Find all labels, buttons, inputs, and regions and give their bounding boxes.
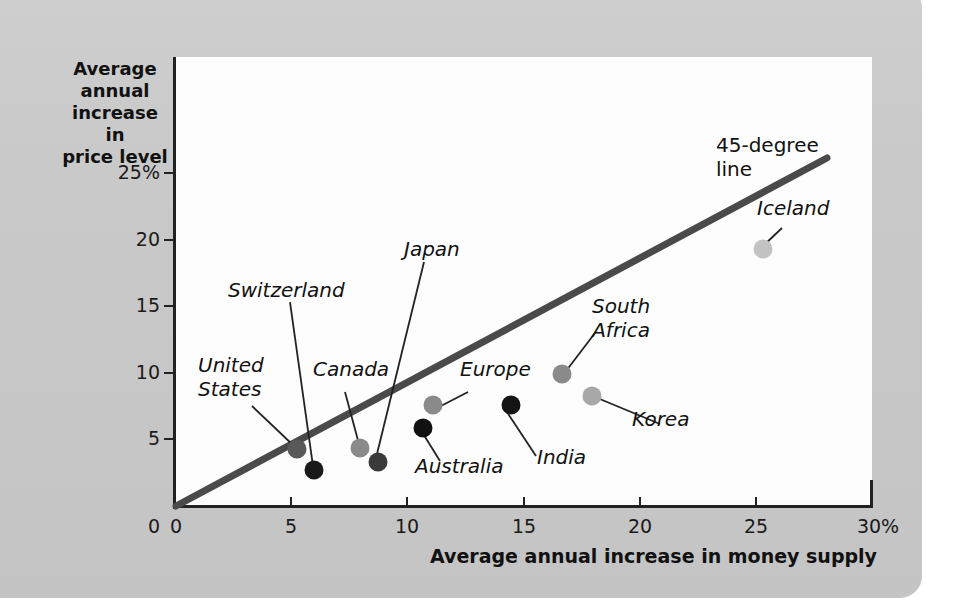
y-axis-line [173,57,176,509]
y-tick-label-25: 25% [90,161,160,183]
label-europe: Europe [460,358,531,382]
x-tick-label-20: 20 [605,515,675,537]
x-tick-5 [290,497,292,508]
y-tick-label-5: 5 [90,427,160,449]
y-tick-10 [164,372,176,374]
data-point-korea[interactable] [583,387,602,406]
x-axis-title: Average annual increase in money supply [430,545,877,567]
x-tick-25 [755,497,757,508]
label-korea: Korea [632,408,689,432]
x-tick-10 [406,497,408,508]
x-tick-label-10: 10 [372,515,442,537]
data-point-south-africa[interactable] [553,365,572,384]
label-japan: Japan [404,238,460,262]
data-point-europe[interactable] [424,396,443,415]
x-tick-label-30: 30% [843,515,913,537]
data-point-japan[interactable] [369,453,388,472]
y-tick-25 [164,172,176,174]
y-tick-label-20: 20 [90,228,160,250]
y-tick-15 [164,305,176,307]
label-south-africa: South Africa [592,295,650,342]
data-point-switzerland[interactable] [305,461,324,480]
y-tick-label-10: 10 [90,361,160,383]
label-switzerland: Switzerland [228,279,345,303]
y-axis-title: Average annual increase in price level [60,58,170,168]
data-point-india[interactable] [502,396,521,415]
label-45-degree-line: 45-degree line [716,133,819,181]
chart-figure: Average annual increase in price level 2… [0,0,961,607]
x-tick-20 [639,497,641,508]
label-united-states: United States [198,354,264,401]
label-australia: Australia [415,455,503,479]
x-axis-end-cap [870,480,873,508]
data-point-iceland[interactable] [754,240,773,259]
label-iceland: Iceland [757,197,829,221]
x-tick-label-5: 5 [256,515,326,537]
x-tick-label-15: 15 [489,515,559,537]
label-canada: Canada [313,358,389,382]
x-tick-label-25: 25 [721,515,791,537]
data-point-united-states[interactable] [288,440,307,459]
x-tick-label-0: 0 [141,515,211,537]
y-tick-20 [164,239,176,241]
y-tick-5 [164,438,176,440]
data-point-australia[interactable] [414,419,433,438]
x-tick-15 [523,497,525,508]
label-india: India [537,446,586,470]
data-point-canada[interactable] [351,439,370,458]
y-tick-label-15: 15 [90,294,160,316]
